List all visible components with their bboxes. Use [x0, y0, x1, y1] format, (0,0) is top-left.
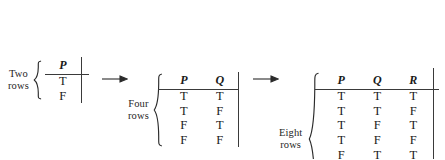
cell-q: F [359, 118, 395, 133]
table-row: F T T [323, 148, 431, 160]
table-body: T F [45, 74, 81, 103]
brace-two-rows [33, 60, 42, 100]
header-rule [315, 89, 439, 90]
table-row: T F F [323, 133, 431, 148]
stage-two-caption-line2: rows [8, 80, 29, 92]
table-header-row: P [45, 57, 81, 74]
brace-four-rows [153, 73, 163, 147]
table-two-rows-wrap: P T F [45, 57, 81, 103]
table-row: F F [166, 133, 238, 148]
cell-r: F [395, 104, 431, 119]
cell-q: T [359, 104, 395, 119]
cell-p: T [323, 89, 359, 104]
stage-four-caption: Four rows [128, 98, 149, 122]
table-row: F T [166, 118, 238, 133]
table-row: T T [166, 89, 238, 104]
stage-eight-caption: Eight rows [279, 127, 302, 151]
table-eight-rows: P Q R T T T T T F [323, 72, 431, 159]
truth-table-expansion-figure: Two rows P T F [0, 0, 445, 159]
cell-q: F [202, 104, 238, 119]
column-header-q: Q [202, 72, 238, 89]
table-two-rows: P T F [45, 57, 81, 103]
header-rule [158, 89, 238, 90]
table-four-rows-wrap: P Q T T T F F T [166, 72, 238, 147]
cell-r: T [395, 89, 431, 104]
table-row: T T T [323, 89, 431, 104]
column-header-q: Q [359, 72, 395, 89]
column-header-p: P [166, 72, 202, 89]
column-header-p: P [45, 57, 81, 74]
cell-p: F [323, 148, 359, 160]
stage-eight-caption-line1: Eight [279, 127, 302, 139]
cell-p: T [166, 104, 202, 119]
cell-p: T [45, 74, 81, 89]
cell-r: F [395, 133, 431, 148]
table-row: F [45, 89, 81, 104]
stage-two-caption: Two rows [8, 68, 29, 92]
table-row: T T F [323, 104, 431, 119]
cell-p: T [323, 118, 359, 133]
cell-p: T [323, 104, 359, 119]
stage-four-rows: Four rows P Q T T [128, 72, 238, 147]
table-row: T [45, 74, 81, 89]
table-header-row: P Q [166, 72, 238, 89]
table-eight-rows-wrap: P Q R T T T T T F [323, 72, 431, 159]
table-body: T T T T T F T F T T [323, 89, 431, 159]
table-row: T F [166, 104, 238, 119]
stage-four-caption-line2: rows [128, 110, 149, 122]
cell-q: T [359, 148, 395, 160]
table-body: T T T F F T F F [166, 89, 238, 147]
brace-eight-rows [308, 72, 320, 159]
arrow-four-to-eight [252, 72, 279, 86]
arrow-two-to-four [101, 72, 128, 86]
table-row: T F T [323, 118, 431, 133]
cell-p: T [166, 89, 202, 104]
stage-four-caption-line1: Four [128, 98, 149, 110]
right-vertical-rule [238, 72, 239, 147]
stage-two-rows: Two rows P T F [8, 57, 81, 103]
cell-p: F [166, 118, 202, 133]
table-header-row: P Q R [323, 72, 431, 89]
cell-q: T [202, 89, 238, 104]
stage-eight-rows: Eight rows P Q R T T T [279, 72, 431, 159]
right-vertical-rule [433, 68, 434, 159]
cell-p: F [166, 133, 202, 148]
cell-p: F [45, 89, 81, 104]
right-vertical-rule [81, 57, 82, 103]
cell-q: T [202, 118, 238, 133]
column-header-r: R [395, 72, 431, 89]
table-four-rows: P Q T T T F F T [166, 72, 238, 147]
cell-q: F [359, 133, 395, 148]
cell-p: T [323, 133, 359, 148]
stage-eight-caption-line2: rows [279, 139, 302, 151]
cell-q: F [202, 133, 238, 148]
cell-r: T [395, 118, 431, 133]
stage-two-caption-line1: Two [8, 68, 29, 80]
column-header-p: P [323, 72, 359, 89]
header-rule [45, 74, 89, 75]
cell-q: T [359, 89, 395, 104]
cell-r: T [395, 148, 431, 160]
